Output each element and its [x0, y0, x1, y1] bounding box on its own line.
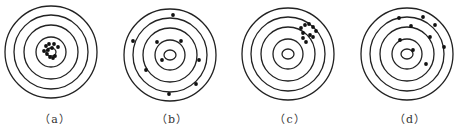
shot-dot: [409, 24, 413, 28]
shot-dot: [314, 29, 318, 33]
shot-dot: [46, 48, 50, 52]
ring-2: [133, 18, 207, 92]
shot-dot: [179, 39, 183, 43]
ring-1: [5, 6, 97, 98]
shot-dot: [52, 42, 56, 46]
label-c: （c）: [274, 110, 305, 126]
shot-dot: [53, 54, 57, 58]
ring-3: [380, 27, 434, 81]
shot-dot: [167, 92, 171, 96]
shot-dot: [301, 36, 305, 40]
bullseye: [164, 50, 176, 60]
ring-4: [155, 40, 185, 70]
shot-dot: [171, 13, 175, 17]
shot-dot: [424, 62, 428, 66]
shot-dot: [131, 39, 135, 43]
shot-dot: [428, 35, 432, 39]
label-d: （d）: [394, 110, 426, 126]
shot-dot: [397, 16, 401, 20]
shot-dot: [411, 48, 415, 52]
shot-dot: [311, 25, 315, 29]
ring-4: [36, 37, 66, 67]
label-b: （b）: [156, 110, 188, 126]
shot-dot: [56, 45, 60, 49]
shot-dot: [442, 45, 446, 49]
ring-1: [361, 8, 453, 100]
ring-2: [370, 17, 444, 91]
ring-2: [14, 15, 88, 89]
ring-4: [392, 39, 422, 69]
ring-3: [143, 28, 197, 82]
ring-4: [273, 39, 303, 69]
target-c: [242, 8, 334, 100]
shot-dot: [301, 31, 305, 35]
shot-dot: [47, 42, 51, 46]
shot-dot: [194, 82, 198, 86]
ring-1: [124, 9, 216, 101]
shot-dot: [307, 22, 311, 26]
shot-dot: [433, 23, 437, 27]
ring-3: [261, 27, 315, 81]
shot-dot: [299, 26, 303, 30]
shot-dot: [304, 40, 308, 44]
ring-3: [24, 25, 78, 79]
shot-dot: [197, 58, 201, 62]
shot-dot: [45, 52, 49, 56]
shot-dot: [155, 40, 159, 44]
shot-dot: [303, 23, 307, 27]
ring-1: [242, 8, 334, 100]
shot-dot: [421, 15, 425, 19]
target-b: [124, 9, 216, 101]
shot-dot: [144, 68, 148, 72]
target-a: [5, 6, 97, 98]
shot-dot: [42, 49, 46, 53]
shot-dot: [311, 35, 315, 39]
bullseye: [282, 49, 294, 59]
shot-dot: [50, 46, 54, 50]
label-a: （a）: [39, 110, 71, 126]
shot-dot: [160, 58, 164, 62]
target-d: [361, 8, 453, 100]
shot-dot: [398, 38, 402, 42]
